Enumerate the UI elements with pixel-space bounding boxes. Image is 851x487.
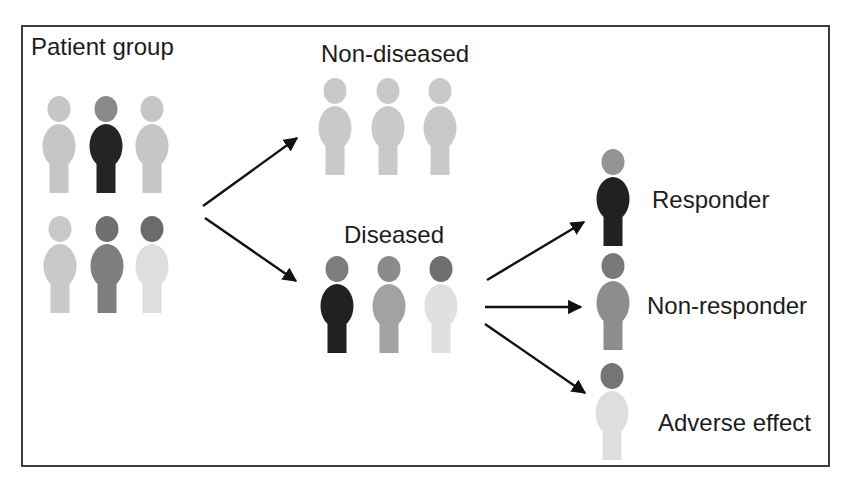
- person-head: [429, 78, 452, 104]
- diseased-figure-2: [368, 255, 410, 353]
- person-head: [141, 96, 164, 122]
- person-body: [373, 284, 406, 353]
- person-body: [597, 281, 630, 350]
- adverse-effect-figure: [591, 362, 633, 460]
- person-body: [424, 106, 457, 175]
- patient-figure-5: [86, 215, 128, 313]
- non-diseased-label: Non-diseased: [321, 41, 469, 67]
- person-body: [90, 124, 123, 193]
- person-head: [95, 96, 118, 122]
- person-head: [602, 149, 625, 175]
- patient-figure-2: [85, 95, 127, 193]
- person-head: [378, 256, 401, 282]
- responder-label: Responder: [652, 187, 769, 213]
- diagram-canvas: Patient group Non-diseased Diseased Resp…: [0, 0, 851, 487]
- nonresponder-figure: [592, 252, 634, 350]
- person-body: [136, 244, 169, 313]
- non-responder-label: Non-responder: [647, 293, 807, 319]
- person-head: [324, 78, 347, 104]
- diseased-label: Diseased: [344, 222, 444, 248]
- patient-figure-6: [131, 215, 173, 313]
- diseased-figure-1: [316, 255, 358, 353]
- person-body: [425, 284, 458, 353]
- person-head: [377, 78, 400, 104]
- nondiseased-figure-1: [314, 77, 356, 175]
- person-head: [430, 256, 453, 282]
- responder-figure: [592, 148, 634, 246]
- person-head: [49, 216, 72, 242]
- person-body: [596, 391, 629, 460]
- person-head: [326, 256, 349, 282]
- person-body: [321, 284, 354, 353]
- person-head: [601, 363, 624, 389]
- person-head: [48, 96, 71, 122]
- nondiseased-figure-3: [419, 77, 461, 175]
- person-body: [44, 244, 77, 313]
- patient-group-label: Patient group: [31, 34, 174, 60]
- person-head: [141, 216, 164, 242]
- person-head: [602, 253, 625, 279]
- patient-figure-3: [131, 95, 173, 193]
- nondiseased-figure-2: [367, 77, 409, 175]
- diseased-figure-3: [420, 255, 462, 353]
- adverse-effect-label: Adverse effect: [658, 410, 811, 436]
- person-head: [96, 216, 119, 242]
- person-body: [597, 177, 630, 246]
- patient-figure-1: [38, 95, 80, 193]
- person-body: [91, 244, 124, 313]
- patient-figure-4: [39, 215, 81, 313]
- person-body: [43, 124, 76, 193]
- person-body: [136, 124, 169, 193]
- person-body: [372, 106, 405, 175]
- person-body: [319, 106, 352, 175]
